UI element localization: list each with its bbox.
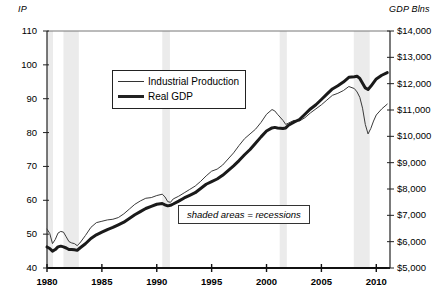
legend-item-real-gdp: Real GDP [118,89,239,104]
left-axis-tick-label: 50 [11,228,37,239]
right-axis-tick-label: $7,000 [397,209,426,220]
right-axis-tick-label: $11,000 [397,104,431,115]
recession-band [354,31,370,268]
recession-band [162,31,170,268]
x-axis-tick-label: 2005 [301,276,341,287]
recession-band [47,31,53,268]
line-swatch-icon [118,95,144,98]
x-axis-tick-label: 1980 [27,276,67,287]
left-axis-tick-label: 90 [11,93,37,104]
left-axis-tick-label: 40 [11,262,37,273]
left-axis-tick-label: 100 [11,59,37,70]
right-axis-tick-label: $8,000 [397,183,426,194]
left-axis-tick-label: 80 [11,127,37,138]
shaded-areas-annotation: shaded areas = recessions [178,205,310,224]
recession-band [63,31,78,268]
chart-container: IP GDP Blns Industrial Production Real G… [0,0,447,304]
x-axis-tick-label: 2010 [356,276,396,287]
right-axis-tick-label: $9,000 [397,157,426,168]
x-axis-tick-label: 1995 [192,276,232,287]
right-axis-tick-label: $6,000 [397,236,426,247]
left-axis-title: IP [18,4,27,14]
plot-area [0,0,447,304]
legend-label: Real GDP [148,91,193,102]
left-axis-tick-label: 60 [11,194,37,205]
x-axis-tick-label: 2000 [247,276,287,287]
right-axis-tick-label: $5,000 [397,262,426,273]
chart-legend: Industrial Production Real GDP [112,70,246,109]
right-axis-tick-label: $14,000 [397,25,431,36]
x-axis-tick-label: 1985 [82,276,122,287]
legend-label: Industrial Production [148,76,239,87]
right-axis-tick-label: $12,000 [397,78,431,89]
line-swatch-icon [118,81,144,82]
recession-band [280,31,287,268]
left-axis-tick-label: 70 [11,160,37,171]
left-axis-tick-label: 110 [11,25,37,36]
legend-item-industrial-production: Industrial Production [118,74,239,89]
right-axis-title: GDP Blns [389,4,430,14]
right-axis-tick-label: $10,000 [397,130,431,141]
x-axis-tick-label: 1990 [137,276,177,287]
right-axis-tick-label: $13,000 [397,51,431,62]
